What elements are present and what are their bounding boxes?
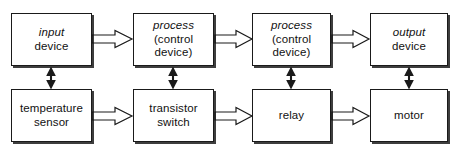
block-arrow-input-to-process1 (92, 31, 132, 48)
double-arrow-process1-to-switch (168, 67, 178, 90)
block-arrow-relay-to-motor (332, 108, 369, 125)
node-label-line: process (271, 19, 312, 33)
block-arrow-switch-to-relay (215, 108, 252, 125)
node-input-device[interactable]: input device (11, 13, 92, 66)
node-temperature-sensor[interactable]: temperature sensor (11, 89, 92, 142)
node-process-control-device-1[interactable]: process (control device) (133, 13, 214, 66)
node-label-line: (control (272, 33, 311, 47)
node-motor[interactable]: motor (370, 89, 448, 142)
node-label-line: output (393, 26, 426, 40)
block-arrow-sensor-to-switch (92, 108, 132, 125)
node-relay[interactable]: relay (252, 89, 331, 142)
node-label-line: device) (273, 46, 311, 60)
node-label-line: device (35, 40, 69, 54)
node-label-line: process (153, 19, 194, 33)
node-label-line: motor (394, 109, 424, 123)
node-label-line: (control (154, 33, 193, 47)
node-label-line: input (39, 26, 64, 40)
node-label-line: device (392, 40, 426, 54)
node-label-line: transistor (149, 102, 197, 116)
node-label-line: temperature (20, 102, 83, 116)
block-diagram: input device process (control device) pr… (0, 0, 457, 155)
double-arrow-input-to-sensor (46, 67, 56, 90)
node-label-line: sensor (34, 116, 69, 130)
block-arrow-process1-to-process2 (215, 31, 252, 48)
block-arrow-process2-to-output (332, 31, 369, 48)
double-arrow-output-to-motor (404, 67, 414, 90)
node-label-line: device) (155, 46, 193, 60)
node-label-line: switch (157, 116, 190, 130)
double-arrow-process2-to-relay (286, 67, 296, 90)
node-output-device[interactable]: output device (370, 13, 448, 66)
node-label-line: relay (279, 109, 304, 123)
node-process-control-device-2[interactable]: process (control device) (252, 13, 331, 66)
node-transistor-switch[interactable]: transistor switch (133, 89, 214, 142)
